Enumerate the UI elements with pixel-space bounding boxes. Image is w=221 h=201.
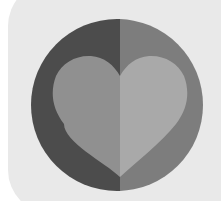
heart-logo-graphic: Grayscale heart inside a circle on a rou… [0,0,221,201]
logo-canvas: Grayscale heart inside a circle on a rou… [0,0,221,201]
